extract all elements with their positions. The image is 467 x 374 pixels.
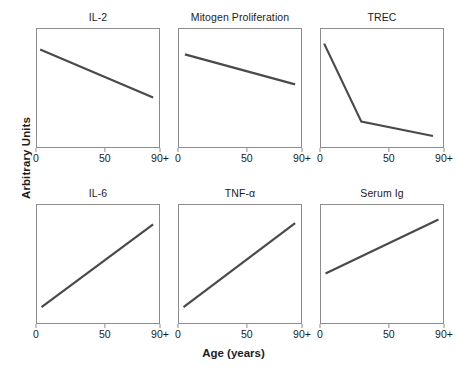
x-tick-label: 90+ xyxy=(293,328,311,340)
x-tick-label: 90+ xyxy=(435,152,453,164)
x-tick-label: 0 xyxy=(317,152,323,164)
y-axis-label: Arbitrary Units xyxy=(20,88,32,228)
x-tick-label: 90+ xyxy=(151,152,169,164)
x-tick-label: 50 xyxy=(383,328,395,340)
x-tick-label: 50 xyxy=(99,152,111,164)
plot-graphics xyxy=(36,28,160,148)
figure-panel-grid: Arbitrary Units Age (years) IL-205090+Mi… xyxy=(0,0,467,374)
data-line xyxy=(185,54,295,84)
x-tick-label: 0 xyxy=(317,328,323,340)
plot-graphics xyxy=(320,204,444,324)
data-line xyxy=(42,224,154,307)
x-tick-label: 90+ xyxy=(293,152,311,164)
panel-title: Serum Ig xyxy=(320,187,444,199)
x-tick-label: 90+ xyxy=(435,328,453,340)
x-tick-label: 50 xyxy=(241,328,253,340)
chart-panel: IL-605090+ xyxy=(36,204,160,324)
chart-panel: TREC05090+ xyxy=(320,28,444,148)
panel-title: IL-6 xyxy=(36,187,160,199)
chart-panel: Serum Ig05090+ xyxy=(320,204,444,324)
data-line xyxy=(40,50,153,98)
plot-graphics xyxy=(320,28,444,148)
panel-title: Mitogen Proliferation xyxy=(178,11,302,23)
data-line xyxy=(326,220,439,274)
chart-panel: IL-205090+ xyxy=(36,28,160,148)
x-tick-label: 50 xyxy=(383,152,395,164)
data-line xyxy=(324,44,433,136)
panel-title: IL-2 xyxy=(36,11,160,23)
chart-panel: Mitogen Proliferation05090+ xyxy=(178,28,302,148)
x-tick-label: 0 xyxy=(33,328,39,340)
panel-title: TREC xyxy=(320,11,444,23)
x-tick-label: 0 xyxy=(175,152,181,164)
plot-graphics xyxy=(36,204,160,324)
plot-graphics xyxy=(178,28,302,148)
panel-title: TNF-α xyxy=(178,187,302,199)
data-line xyxy=(184,223,296,307)
x-axis-label: Age (years) xyxy=(0,347,467,359)
chart-panel: TNF-α05090+ xyxy=(178,204,302,324)
x-tick-label: 0 xyxy=(33,152,39,164)
x-tick-label: 0 xyxy=(175,328,181,340)
x-tick-label: 50 xyxy=(99,328,111,340)
x-tick-label: 90+ xyxy=(151,328,169,340)
x-tick-label: 50 xyxy=(241,152,253,164)
plot-graphics xyxy=(178,204,302,324)
